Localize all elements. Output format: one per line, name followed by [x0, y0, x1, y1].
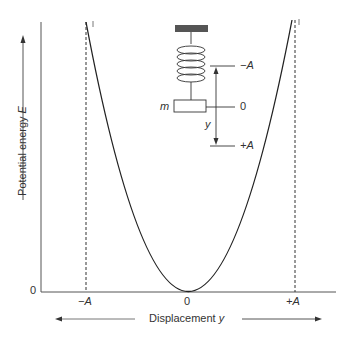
tick-zero: 0	[184, 295, 190, 307]
y-axis-label: Potential energy E	[16, 86, 28, 216]
mass-label: m	[160, 100, 169, 112]
tick-minus-a: −A	[78, 295, 92, 307]
inset-plus-a: +A	[240, 139, 254, 151]
inset-zero: 0	[240, 100, 246, 112]
origin-label: 0	[30, 284, 36, 296]
spring-coils	[177, 46, 205, 82]
energy-diagram	[0, 0, 345, 338]
x-axis-label: Displacement y	[149, 312, 224, 324]
mass-block	[174, 100, 206, 112]
ceiling-support	[175, 25, 208, 32]
inset-displacement-label: y	[205, 118, 211, 130]
inset-minus-a: −A	[240, 59, 254, 71]
tick-plus-a: +A	[286, 295, 300, 307]
